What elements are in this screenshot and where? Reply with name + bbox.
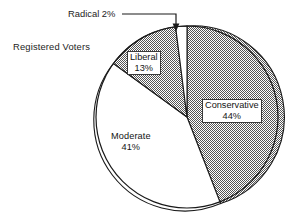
slice-label-moderate-name: Moderate (111, 131, 151, 142)
slice-label-conservative-value: 44% (205, 111, 259, 122)
radical-leader-line (122, 14, 176, 24)
slice-label-moderate: Moderate 41% (111, 131, 151, 152)
slice-label-liberal-name: Liberal (130, 52, 158, 63)
pie-chart-figure: Registered Voters Radical 2% Liberal 13%… (0, 0, 286, 221)
slice-label-moderate-value: 41% (111, 142, 151, 153)
slice-label-liberal-value: 13% (130, 63, 158, 74)
slice-label-conservative-name: Conservative (205, 100, 259, 111)
slice-label-radical: Radical 2% (68, 8, 115, 19)
slice-label-conservative: Conservative 44% (202, 99, 262, 123)
chart-title: Registered Voters (13, 41, 90, 52)
slice-label-liberal: Liberal 13% (127, 51, 161, 75)
